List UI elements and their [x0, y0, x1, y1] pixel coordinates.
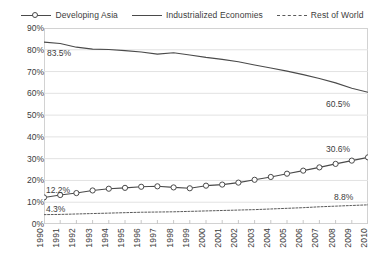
data-point-marker	[252, 177, 257, 182]
y-axis-tick-label: 20%	[8, 175, 44, 185]
x-axis-tick-label: 1998	[165, 228, 175, 248]
dashed-line-icon	[277, 11, 307, 20]
data-point-marker	[236, 180, 241, 185]
y-axis-tick-label: 40%	[8, 132, 44, 142]
x-axis-tick-label: 1996	[132, 228, 142, 248]
series-layer	[44, 42, 368, 214]
data-point-marker	[74, 190, 79, 195]
data-point-label: 30.6%	[326, 144, 350, 154]
line-circle-marker-icon	[21, 11, 51, 20]
plot-area	[44, 28, 368, 224]
legend-label: Developing Asia	[55, 10, 117, 20]
data-point-marker	[284, 171, 289, 176]
data-point-marker	[203, 183, 208, 188]
x-axis-tick-label: 2001	[213, 228, 223, 248]
x-axis-tick-label: 2004	[262, 228, 272, 248]
series-line	[44, 205, 368, 215]
data-point-marker	[155, 184, 160, 189]
x-axis-tick-label: 1991	[51, 228, 61, 248]
data-point-marker	[44, 195, 47, 200]
x-axis-tick-label: 2010	[359, 228, 369, 248]
data-point-marker	[333, 161, 338, 166]
x-axis-tick-label: 2002	[229, 228, 239, 248]
x-axis-tick-label: 1993	[84, 228, 94, 248]
data-point-label: 83.5%	[47, 48, 71, 58]
y-axis-tick-label: 60%	[8, 88, 44, 98]
data-point-marker	[106, 186, 111, 191]
gridlines	[44, 50, 368, 202]
x-axis-tick-label: 2006	[294, 228, 304, 248]
x-axis-tick-label: 1995	[116, 228, 126, 248]
data-point-marker	[349, 158, 354, 163]
y-axis-tick-label: 80%	[8, 45, 44, 55]
data-point-marker	[317, 165, 322, 170]
legend-item-developing-asia[interactable]: Developing Asia	[21, 10, 117, 20]
chart-legend: Developing Asia Industrialized Economies…	[0, 8, 385, 22]
x-axis-tick-label: 1999	[181, 228, 191, 248]
y-axis-tick-label: 50%	[8, 110, 44, 120]
data-point-marker	[90, 188, 95, 193]
data-point-marker	[365, 155, 368, 160]
x-axis-tick-label: 2009	[343, 228, 353, 248]
x-axis-tick-label: 1992	[67, 228, 77, 248]
legend-label: Industrialized Economies	[166, 10, 263, 20]
x-axis-tick-label: 2005	[278, 228, 288, 248]
x-axis-tick-label: 1997	[148, 228, 158, 248]
x-axis-ticks	[44, 220, 368, 224]
data-point-marker	[187, 186, 192, 191]
x-axis-tick-label: 2003	[246, 228, 256, 248]
x-axis-tick-label: 2000	[197, 228, 207, 248]
x-axis-tick-label: 2008	[327, 228, 337, 248]
data-point-marker	[122, 185, 127, 190]
data-point-marker	[301, 168, 306, 173]
legend-item-rest-of-world[interactable]: Rest of World	[277, 10, 364, 20]
y-axis-tick-label: 30%	[8, 154, 44, 164]
x-axis-tick-label: 1990	[35, 228, 45, 248]
y-axis-tick-label: 90%	[8, 23, 44, 33]
data-point-label: 60.5%	[326, 99, 350, 109]
y-axis-tick-label: 70%	[8, 67, 44, 77]
data-point-marker	[220, 182, 225, 187]
data-point-marker	[139, 184, 144, 189]
x-axis-tick-label: 2007	[310, 228, 320, 248]
solid-line-icon	[132, 11, 162, 20]
x-axis-tick-label: 1994	[100, 228, 110, 248]
data-point-label: 4.3%	[46, 204, 65, 214]
data-point-marker	[268, 174, 273, 179]
legend-label: Rest of World	[311, 10, 364, 20]
data-point-label: 12.2%	[46, 185, 70, 195]
line-chart: Developing Asia Industrialized Economies…	[0, 0, 385, 267]
y-axis-tick-label: 10%	[8, 197, 44, 207]
data-point-label: 8.8%	[334, 192, 353, 202]
legend-item-industrialized-economies[interactable]: Industrialized Economies	[132, 10, 263, 20]
data-point-marker	[171, 185, 176, 190]
